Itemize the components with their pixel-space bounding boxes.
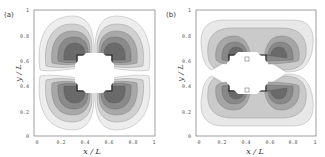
panel-b: 1 0.8 0.6 0.4 0.2 0 0 0.2 0.4 0.6 0.8 1 … bbox=[162, 0, 324, 157]
svg-text:1: 1 bbox=[313, 139, 316, 145]
marker-top-b bbox=[245, 57, 249, 61]
svg-text:0: 0 bbox=[197, 139, 200, 145]
central-hole-a bbox=[75, 53, 114, 93]
y-axis-label-b: y / L bbox=[176, 64, 185, 83]
marker-bottom-b bbox=[245, 88, 249, 92]
svg-text:0: 0 bbox=[188, 133, 191, 139]
contour-plot-b: 1 0.8 0.6 0.4 0.2 0 0 0.2 0.4 0.6 0.8 1 … bbox=[162, 0, 324, 157]
svg-text:0.6: 0.6 bbox=[182, 58, 191, 64]
svg-text:0.2: 0.2 bbox=[56, 139, 65, 145]
svg-text:1: 1 bbox=[188, 7, 191, 13]
panel-a: 1 0.8 0.6 0.4 0.2 0 0 0.2 0.4 0.6 0.8 1 … bbox=[0, 0, 162, 157]
svg-text:0: 0 bbox=[26, 133, 29, 139]
svg-text:0: 0 bbox=[35, 139, 38, 145]
svg-text:0.4: 0.4 bbox=[80, 139, 89, 145]
svg-text:0.2: 0.2 bbox=[182, 109, 191, 115]
svg-text:1: 1 bbox=[152, 139, 155, 145]
x-axis-label-a: x / L bbox=[83, 147, 101, 156]
svg-text:0.8: 0.8 bbox=[128, 139, 137, 145]
svg-text:0.2: 0.2 bbox=[20, 109, 29, 115]
panel-label-b: (b) bbox=[166, 11, 176, 19]
svg-text:0.8: 0.8 bbox=[182, 33, 191, 39]
x-axis-label-b: x / L bbox=[246, 147, 264, 156]
svg-text:0.8: 0.8 bbox=[20, 33, 29, 39]
svg-text:0.4: 0.4 bbox=[182, 83, 191, 89]
svg-text:0.4: 0.4 bbox=[241, 139, 250, 145]
contour-plot-a: 1 0.8 0.6 0.4 0.2 0 0 0.2 0.4 0.6 0.8 1 … bbox=[0, 0, 162, 157]
x-ticks-b: 0 0.2 0.4 0.6 0.8 1 bbox=[197, 139, 316, 145]
svg-text:0.6: 0.6 bbox=[104, 139, 113, 145]
svg-text:0.6: 0.6 bbox=[20, 58, 29, 64]
panel-label-a: (a) bbox=[4, 11, 14, 19]
svg-text:0.2: 0.2 bbox=[217, 139, 226, 145]
svg-text:1: 1 bbox=[26, 7, 29, 13]
y-axis-label-a: y / L bbox=[14, 64, 23, 83]
svg-text:0.4: 0.4 bbox=[20, 83, 29, 89]
svg-text:0.6: 0.6 bbox=[265, 139, 274, 145]
x-ticks-a: 0 0.2 0.4 0.6 0.8 1 bbox=[35, 139, 155, 145]
svg-text:0.8: 0.8 bbox=[288, 139, 297, 145]
